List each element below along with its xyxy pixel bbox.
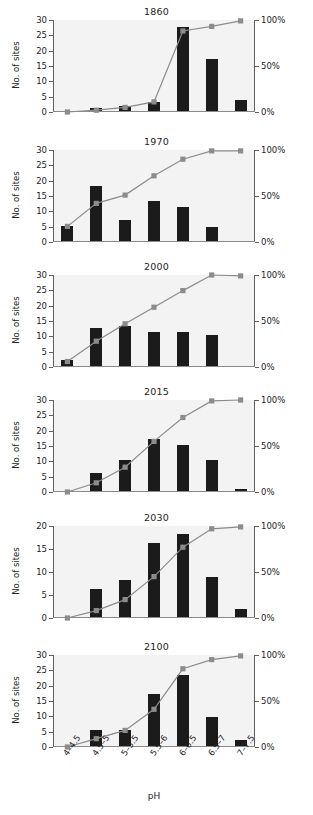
cumulative-marker [94, 480, 99, 485]
cumulative-marker [209, 272, 214, 277]
cumulative-marker [94, 608, 99, 613]
cumulative-marker [209, 398, 214, 403]
y-tick-label: 20 [36, 301, 47, 311]
cumulative-marker [94, 339, 99, 344]
y2-tick-label: 50% [261, 61, 280, 71]
ph-distribution-figure: 18600510152025300%50%100%No. of sites197… [0, 0, 313, 815]
y-tick-label: 20 [36, 176, 47, 186]
cumulative-line-series [53, 400, 255, 492]
y-tick-label: 0 [42, 487, 47, 497]
y-tick-label: 25 [36, 160, 47, 170]
y2-tick [255, 492, 259, 493]
cumulative-marker [238, 273, 243, 278]
y-tick-label: 15 [36, 696, 47, 706]
y2-tick [255, 112, 259, 113]
y2-tick [255, 275, 259, 276]
y2-tick-label: 0% [261, 362, 275, 372]
y-tick-label: 5 [42, 590, 47, 600]
cumulative-marker [123, 597, 128, 602]
cumulative-line [67, 21, 240, 112]
chart-panel-2015: 20150510152025300%50%100%No. of sites [0, 386, 313, 498]
cumulative-marker [65, 489, 70, 494]
y2-tick [255, 701, 259, 702]
cumulative-marker [65, 109, 70, 114]
cumulative-marker [151, 305, 156, 310]
y2-tick-label: 50% [261, 191, 280, 201]
x-axis-label: pH [53, 791, 255, 801]
y-tick [49, 618, 53, 619]
y-axis-label: No. of sites [11, 35, 21, 95]
y2-tick-label: 50% [261, 316, 280, 326]
plot-area: 0510152025300%50%100% [53, 20, 255, 112]
y-axis-label: No. of sites [11, 670, 21, 730]
y2-tick [255, 400, 259, 401]
y-tick-label: 5 [42, 347, 47, 357]
y2-tick [255, 526, 259, 527]
y-tick-label: 20 [36, 681, 47, 691]
y-tick-label: 30 [36, 270, 47, 280]
plot-area: 0510152025300%50%100% [53, 150, 255, 242]
cumulative-line [67, 400, 240, 492]
cumulative-marker [65, 615, 70, 620]
y-tick-label: 0 [42, 613, 47, 623]
cumulative-marker [151, 439, 156, 444]
y-tick-label: 25 [36, 665, 47, 675]
y-tick [49, 112, 53, 113]
y-tick-label: 5 [42, 472, 47, 482]
y-axis-label: No. of sites [11, 415, 21, 475]
y2-tick-label: 100% [261, 270, 285, 280]
cumulative-marker [151, 707, 156, 712]
cumulative-line [67, 527, 240, 618]
cumulative-marker [123, 728, 128, 733]
y-tick-label: 15 [36, 316, 47, 326]
y-tick-label: 10 [36, 456, 47, 466]
y-axis-label: No. of sites [11, 541, 21, 601]
cumulative-marker [123, 193, 128, 198]
y2-tick [255, 618, 259, 619]
cumulative-marker [123, 465, 128, 470]
cumulative-line [67, 656, 240, 747]
y-tick-label: 25 [36, 30, 47, 40]
y-tick-label: 0 [42, 742, 47, 752]
cumulative-marker [209, 526, 214, 531]
y-tick-label: 0 [42, 237, 47, 247]
y2-tick [255, 367, 259, 368]
cumulative-marker [238, 524, 243, 529]
chart-panel-1860: 18600510152025300%50%100%No. of sites [0, 6, 313, 118]
cumulative-marker [94, 201, 99, 206]
y-tick-label: 15 [36, 191, 47, 201]
cumulative-marker [123, 105, 128, 110]
y-axis-label: No. of sites [11, 290, 21, 350]
y2-tick-label: 0% [261, 237, 275, 247]
cumulative-marker [151, 99, 156, 104]
y-tick-label: 25 [36, 285, 47, 295]
y-tick-label: 15 [36, 441, 47, 451]
y-tick [49, 747, 53, 748]
y2-tick [255, 242, 259, 243]
chart-panel-1970: 19700510152025300%50%100%No. of sites [0, 136, 313, 248]
y-tick-label: 30 [36, 650, 47, 660]
cumulative-marker [209, 148, 214, 153]
cumulative-marker [238, 18, 243, 23]
y2-tick-label: 0% [261, 107, 275, 117]
plot-area: 051015200%50%100% [53, 526, 255, 618]
y-tick-label: 20 [36, 46, 47, 56]
cumulative-line-series [53, 275, 255, 367]
cumulative-marker [238, 653, 243, 658]
y2-tick-label: 100% [261, 650, 285, 660]
y-tick-label: 30 [36, 395, 47, 405]
y2-tick [255, 747, 259, 748]
y2-tick [255, 150, 259, 151]
cumulative-marker [238, 148, 243, 153]
y-axis-label: No. of sites [11, 165, 21, 225]
chart-panel-2000: 20000510152025300%50%100%No. of sites [0, 261, 313, 373]
cumulative-line-series [53, 150, 255, 242]
y-tick-label: 30 [36, 15, 47, 25]
cumulative-marker [180, 415, 185, 420]
plot-area: 0510152025300%50%100% [53, 275, 255, 367]
cumulative-marker [151, 574, 156, 579]
y2-tick [255, 321, 259, 322]
y2-tick-label: 100% [261, 15, 285, 25]
cumulative-line [67, 275, 240, 362]
plot-area: 0510152025300%50%100% [53, 400, 255, 492]
